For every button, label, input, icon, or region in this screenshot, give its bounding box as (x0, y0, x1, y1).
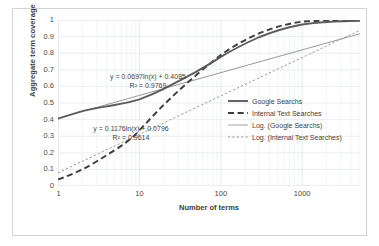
legend-item-log-internal-text-searches[interactable]: Log. (Internal Text Searches) (228, 131, 368, 143)
x-axis-title: Number of terms (58, 203, 360, 212)
legend-label: Log. (Google Searchs) (252, 121, 322, 130)
x-tick-label: 1 (56, 189, 60, 198)
legend-label: Log. (Internal Text Searches) (252, 133, 342, 142)
y-tick-label: 0.3 (14, 132, 54, 140)
x-tick-label: 10 (135, 189, 143, 198)
x-tick-label: 100 (215, 189, 228, 198)
internal-trend-r2-text: R² = 0.9614 (66, 133, 196, 142)
internal-trend-equation-text: y = 0.1176ln(x) + 0.0796 (66, 124, 196, 133)
solid-thick-line-key-icon (228, 96, 250, 106)
dotted-thin-line-key-icon (228, 132, 250, 142)
y-axis-title: Aggregate term coverage (28, 0, 37, 131)
legend-item-internal-text-searches[interactable]: Internal Text Searches (228, 107, 368, 119)
y-tick-label: 0.1 (14, 165, 54, 173)
x-tick-label: 1000 (294, 189, 311, 198)
legend-item-log-google-searchs[interactable]: Log. (Google Searchs) (228, 119, 368, 131)
dashed-thick-line-key-icon (228, 108, 250, 118)
google-trend-equation-text: y = 0.0697ln(x) + 0.4085 (88, 72, 208, 81)
legend-label: Internal Text Searches (252, 109, 322, 118)
internal-trend-equation-annotation: y = 0.1176ln(x) + 0.0796 R² = 0.9614 (66, 124, 196, 142)
google-trend-equation-annotation: y = 0.0697ln(x) + 0.4085 R² = 0.9769 (88, 72, 208, 90)
solid-thin-line-key-icon (228, 120, 250, 130)
y-tick-label: 0.2 (14, 149, 54, 157)
google-trend-r2-text: R² = 0.9769 (88, 81, 208, 90)
chart-container: 1 0.9 0.8 0.7 0.6 0.5 0.4 0.3 0.2 0.1 0 … (0, 0, 379, 246)
legend-label: Google Searchs (252, 97, 302, 106)
legend-item-google-searchs[interactable]: Google Searchs (228, 95, 368, 107)
chart-legend: Google Searchs Internal Text Searches Lo… (228, 95, 368, 143)
x-axis-tick-labels: 1 10 100 1000 (0, 189, 379, 203)
